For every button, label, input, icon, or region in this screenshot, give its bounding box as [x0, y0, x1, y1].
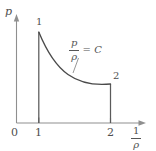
x-axis: [17, 120, 147, 125]
curve-equation-denominator: ρ: [69, 52, 79, 63]
x-tick-label-2: 2: [107, 127, 114, 138]
x-axis-label-denominator: ρ: [131, 140, 141, 151]
state-2-label: 2: [113, 71, 119, 81]
x-axis-label: 1 ρ: [131, 126, 141, 150]
x-tick-label-1: 1: [35, 127, 42, 138]
x-tick-label-0: 0: [11, 127, 18, 138]
curve-equation-fraction: p ρ: [69, 38, 79, 62]
curve-equation-numerator: p: [69, 38, 79, 49]
y-axis-label: p: [5, 6, 12, 17]
curve-equation-constant: C: [94, 45, 102, 55]
x-axis-label-numerator: 1: [131, 126, 141, 137]
pressure-volume-figure: p 1 ρ 0 1 2 1 2 p ρ = C: [0, 0, 156, 150]
y-axis: [14, 14, 19, 123]
state-1-label: 1: [36, 17, 42, 27]
y-axis-arrowhead: [14, 14, 19, 22]
curve-equation-sign: =: [83, 45, 91, 55]
x-axis-label-fraction: 1 ρ: [131, 126, 141, 150]
x-axis-arrowhead: [139, 120, 147, 125]
x-axis-ticks: [39, 118, 111, 124]
curve-equation-label: p ρ = C: [69, 38, 102, 62]
